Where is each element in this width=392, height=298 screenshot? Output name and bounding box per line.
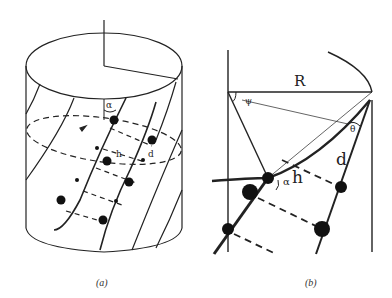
panel-a-beads [57,116,157,225]
label-b-h: h [292,167,303,187]
alpha-arc-b [276,180,279,190]
chord-diagonal [268,92,372,178]
figure-canvas: α h d (a) [0,0,392,298]
label-b-alpha: α [283,176,290,187]
strand-left [214,178,268,254]
helix-strand-main-2 [100,102,156,250]
cylinder-bottom-arc [26,228,182,252]
chord-psi [242,100,348,124]
outer-arc [328,52,372,92]
panel-b [212,50,372,254]
label-b-R: R [294,72,306,90]
label-a-d: d [148,149,154,159]
caption-b: (b) [305,277,317,289]
label-a-alpha: α [106,100,112,110]
helix-strand-back-2 [26,98,74,180]
label-a-h: h [116,149,122,159]
caption-a: (a) [96,277,108,289]
alpha-arc [104,110,116,112]
rungs-b [234,160,340,254]
helix-strand-back-3 [156,82,176,140]
equator-arrow [80,126,86,131]
label-b-d: d [336,149,347,169]
label-b-theta: θ [350,124,355,134]
cylinder-radius [104,66,178,79]
helix-strand-back-4 [156,190,182,248]
helix-strand-back-1 [26,84,40,114]
rungs [66,128,152,222]
label-b-psi: ψ [245,96,252,106]
